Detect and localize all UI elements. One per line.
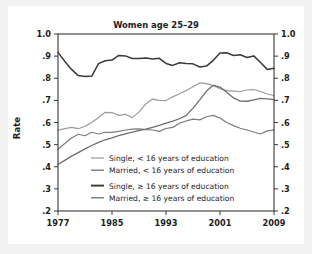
line-chart: Women age 25–29 Rate 1.0.9.8.7.6.5.4.3.2… <box>8 6 304 244</box>
y-tick-label-right: .2 <box>281 206 290 216</box>
legend-label: Married, ≥ 16 years of education <box>109 194 235 203</box>
y-tick-label-right: .3 <box>281 184 290 194</box>
y-tick-label: .2 <box>42 206 51 216</box>
y-tick-label-right: 1.0 <box>281 29 296 39</box>
series-line <box>58 85 274 164</box>
y-tick-label: .6 <box>42 118 51 128</box>
y-axis-left-ticks: 1.0.9.8.7.6.5.4.3.2 <box>36 29 58 216</box>
y-axis-title-group: Rate <box>12 117 22 140</box>
legend-label: Single, ≥ 16 years of education <box>109 182 229 191</box>
chart-title-group: Women age 25–29 <box>113 20 199 30</box>
chart-card: Women age 25–29 Rate 1.0.9.8.7.6.5.4.3.2… <box>8 6 304 244</box>
y-tick-label: .7 <box>42 95 51 105</box>
x-tick-label: 1993 <box>155 218 178 228</box>
legend-label: Married, < 16 years of education <box>109 166 235 175</box>
y-tick-label: .9 <box>42 51 51 61</box>
y-axis-title: Rate <box>12 117 22 140</box>
y-axis-right-ticks: 1.0.9.8.7.6.5.4.3.2 <box>274 29 296 216</box>
series-line <box>58 52 274 76</box>
series-line <box>58 115 274 149</box>
y-tick-label-right: .9 <box>281 51 290 61</box>
y-tick-label-right: .5 <box>281 140 290 150</box>
chart-figure: Women age 25–29 Rate 1.0.9.8.7.6.5.4.3.2… <box>0 0 312 254</box>
x-tick-label: 2009 <box>263 218 286 228</box>
y-tick-label: .5 <box>42 140 51 150</box>
x-tick-label: 2001 <box>209 218 232 228</box>
y-tick-label-right: .4 <box>281 162 290 172</box>
legend-label: Single, < 16 years of education <box>109 154 229 163</box>
y-tick-label-right: .6 <box>281 118 290 128</box>
y-tick-label: .3 <box>42 184 51 194</box>
x-tick-label: 1977 <box>47 218 70 228</box>
y-tick-label: 1.0 <box>36 29 51 39</box>
y-tick-label-right: .7 <box>281 95 290 105</box>
y-tick-label-right: .8 <box>281 73 290 83</box>
y-tick-label: .4 <box>42 162 51 172</box>
series-group <box>58 52 274 164</box>
x-axis-ticks: 19771985199320012009 <box>47 211 286 228</box>
x-tick-label: 1985 <box>101 218 124 228</box>
y-tick-label: .8 <box>42 73 51 83</box>
chart-title: Women age 25–29 <box>113 20 199 30</box>
chart-legend: Single, < 16 years of educationMarried, … <box>91 154 235 203</box>
